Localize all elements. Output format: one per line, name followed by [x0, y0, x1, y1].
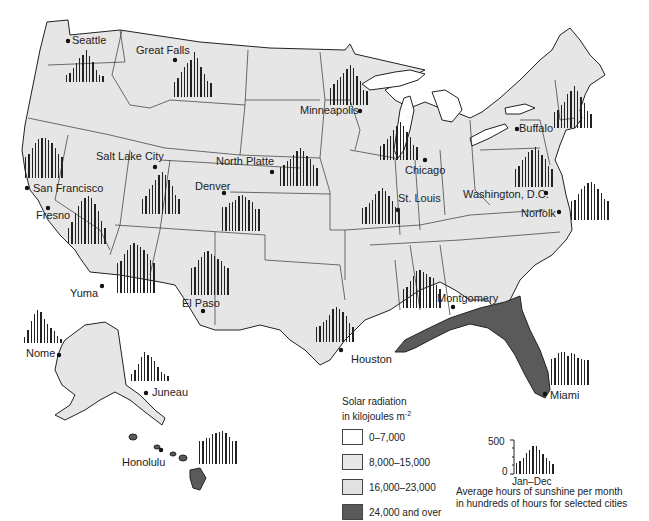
chart-bar — [201, 257, 202, 295]
chart-bar — [332, 309, 333, 342]
chart-bar — [227, 268, 228, 295]
chart-bar — [339, 309, 340, 342]
sample-y-min: 0 — [502, 466, 508, 478]
chart-bar — [423, 272, 424, 308]
chart-bar — [337, 80, 338, 105]
chart-bar — [88, 196, 89, 244]
chart-bar — [346, 316, 347, 342]
chart-bar — [306, 156, 307, 186]
chart-bar — [385, 191, 386, 224]
chart-bar — [604, 199, 605, 220]
chart-bar — [378, 191, 379, 224]
chart-bar — [51, 143, 52, 178]
chart-bar — [229, 203, 230, 231]
chart-bar — [342, 312, 343, 342]
chart-bar — [58, 154, 59, 178]
chart-bar — [333, 84, 334, 105]
chart-bar — [591, 182, 592, 220]
chart-bar — [175, 195, 176, 214]
chart-bar — [535, 147, 536, 187]
chart-bar — [554, 358, 555, 385]
chart-bar — [416, 271, 417, 308]
chart-bar — [91, 198, 92, 244]
chart-bar — [61, 157, 62, 178]
chart-bar — [515, 169, 516, 187]
chart-washington-dc — [515, 147, 553, 187]
chart-bar — [346, 69, 347, 105]
legend-item: 8,000–15,000 — [342, 451, 462, 473]
chart-bar — [98, 211, 99, 244]
city-label-chicago: Chicago — [405, 164, 445, 176]
chart-bar — [86, 50, 87, 82]
chart-bar — [206, 438, 207, 464]
chart-bar — [66, 75, 67, 82]
chart-bar — [587, 111, 588, 128]
chart-bar — [366, 91, 367, 105]
chart-bar — [329, 315, 330, 342]
city-label-san-francisco: San Francisco — [33, 182, 103, 194]
chart-bar — [336, 307, 337, 342]
chart-bar — [71, 222, 72, 244]
chart-bar — [392, 201, 393, 224]
chart-bar — [104, 228, 105, 244]
chart-bar — [372, 200, 373, 224]
chart-bar — [570, 91, 571, 128]
chart-bar — [323, 322, 324, 342]
chart-bar — [177, 78, 178, 97]
chart-bar — [69, 73, 70, 82]
chart-bar — [580, 97, 581, 128]
chart-bar — [178, 199, 179, 214]
chart-bar — [584, 186, 585, 220]
chart-denver — [222, 195, 260, 231]
chart-bar — [117, 263, 118, 293]
chart-bar — [78, 206, 79, 244]
chart-bar — [210, 83, 211, 97]
chart-bar — [41, 138, 42, 178]
city-label-yuma: Yuma — [70, 287, 98, 299]
chart-bar — [362, 208, 363, 224]
chart-bar — [410, 281, 411, 308]
chart-bar — [57, 336, 58, 343]
chart-nome — [24, 310, 62, 343]
sample-bars — [516, 446, 554, 474]
chart-st-louis — [362, 188, 400, 224]
chart-bar — [255, 209, 256, 232]
chart-bar — [245, 197, 246, 231]
chart-bar — [151, 357, 152, 381]
chart-bar — [516, 463, 517, 474]
chart-bar — [293, 155, 294, 186]
chart-bar — [190, 60, 191, 97]
chart-buffalo — [554, 86, 592, 128]
chart-bar — [577, 358, 578, 385]
chart-bar — [184, 67, 185, 97]
chart-bar — [296, 151, 297, 186]
chart-bar — [44, 319, 45, 343]
chart-bar — [429, 277, 430, 308]
chart-bar — [168, 180, 169, 214]
chart-bar — [319, 326, 320, 342]
chart-bar — [54, 331, 55, 343]
city-label-nome: Nome — [26, 347, 55, 359]
chart-bar — [406, 132, 407, 160]
chart-bar — [235, 441, 236, 464]
chart-bar — [519, 461, 520, 474]
chart-bar — [353, 68, 354, 105]
chart-bar — [529, 450, 530, 474]
chart-bar — [152, 185, 153, 214]
city-label-buffalo: Buffalo — [519, 122, 553, 134]
chart-bar — [31, 321, 32, 343]
chart-bar — [551, 169, 552, 187]
legend-swatch — [342, 454, 363, 470]
chart-bar — [313, 165, 314, 186]
chart-bar — [526, 453, 527, 474]
chart-bar — [283, 165, 284, 186]
chart-bar — [209, 438, 210, 464]
chart-bar — [79, 58, 80, 82]
chart-bar — [310, 159, 311, 186]
chart-bar — [290, 159, 291, 186]
chart-bar — [242, 195, 243, 231]
chart-bar — [217, 259, 218, 295]
chart-bar — [574, 354, 575, 385]
chart-bar — [75, 213, 76, 244]
chart-bar — [142, 199, 143, 214]
